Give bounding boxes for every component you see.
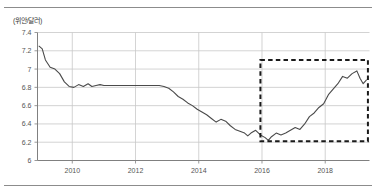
x-tick-label: 2014: [191, 167, 207, 174]
y-tick-label: 7.2: [22, 47, 32, 54]
y-tick-label: 6.8: [22, 84, 32, 91]
y-tick-label: 6: [28, 157, 32, 164]
highlight-box-annotation: [260, 60, 368, 141]
y-tick-label: 6.6: [22, 102, 32, 109]
x-tick-label: 2010: [64, 167, 80, 174]
horizontal-gridlines: [38, 33, 370, 143]
bottom-divider-rule: [4, 185, 372, 186]
y-tick-label: 6.4: [22, 120, 32, 127]
y-axis-tick-labels: 66.26.46.66.877.27.4: [22, 29, 32, 164]
x-tick-label: 2016: [254, 167, 270, 174]
x-tick-label: 2012: [128, 167, 144, 174]
y-tick-label: 6.2: [22, 139, 32, 146]
line-chart-plot: 66.26.46.66.877.27.4 2010201220142016201…: [0, 0, 376, 194]
chart-figure: (위안/달러) 66.26.46.66.877.27.4 20102012201…: [0, 0, 376, 194]
y-tick-label: 7: [28, 66, 32, 73]
x-axis-tick-labels: 20102012201420162018: [64, 167, 333, 174]
x-tick-label: 2018: [317, 167, 333, 174]
y-tick-label: 7.4: [22, 29, 32, 36]
